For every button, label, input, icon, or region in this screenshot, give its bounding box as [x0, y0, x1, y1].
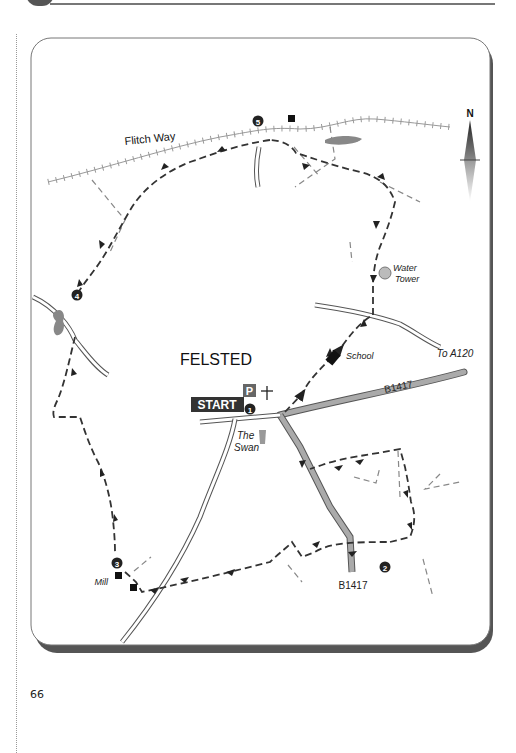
page-number: 66 — [30, 688, 44, 701]
waypoint-1: 1 — [245, 404, 256, 415]
waypoint-4: 4 — [72, 290, 83, 301]
margin-guide — [16, 34, 17, 753]
header-rule — [50, 3, 495, 5]
route-map: START P 1 2 3 4 5 FELSTED Flitch Way Wat… — [30, 37, 493, 653]
parking-label: P — [246, 385, 253, 397]
start-label: START — [197, 398, 237, 412]
svg-text:N: N — [466, 108, 473, 119]
b1417-label-south: B1417 — [339, 580, 368, 591]
mill-building-icon — [130, 584, 137, 591]
water-tower-label-1: Water — [393, 263, 418, 273]
waypoint-2: 2 — [380, 562, 391, 573]
svg-text:4: 4 — [75, 292, 80, 301]
waypoint-5: 5 — [253, 116, 264, 127]
water-tower-icon — [379, 267, 391, 279]
water-tower-label-2: Tower — [395, 274, 420, 284]
waypoint-3: 3 — [112, 558, 123, 569]
the-swan-label-1: The — [237, 430, 255, 441]
building-icon — [288, 115, 295, 122]
svg-text:1: 1 — [248, 406, 253, 415]
village-name: FELSTED — [180, 351, 252, 368]
mill-building-icon — [115, 572, 122, 579]
to-a120-label: To A120 — [437, 348, 474, 359]
pub-icon — [259, 430, 266, 444]
the-swan-label-2: Swan — [234, 442, 259, 453]
mill-label: Mill — [95, 577, 109, 587]
school-label: School — [346, 351, 375, 361]
svg-text:2: 2 — [383, 564, 388, 573]
svg-text:3: 3 — [115, 560, 120, 569]
svg-text:5: 5 — [256, 118, 261, 127]
